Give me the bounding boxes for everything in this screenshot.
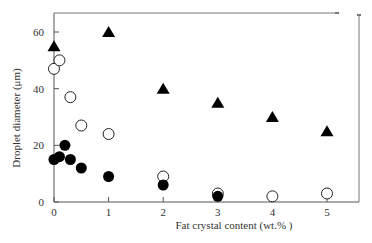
x-tick-label: 3 xyxy=(215,206,221,218)
filled-circle-marker xyxy=(212,191,223,202)
x-tick-label: 0 xyxy=(51,206,57,218)
x-tick-label: 2 xyxy=(160,206,166,218)
triangle-marker xyxy=(48,40,61,51)
y-tick-label: 40 xyxy=(33,83,45,95)
filled-circle-marker xyxy=(54,151,65,162)
open-circle-marker xyxy=(267,191,278,202)
y-tick-label: 0 xyxy=(39,196,45,208)
y-axis-label: Droplet diameter (μm) xyxy=(10,68,23,168)
x-tick-label: 5 xyxy=(324,206,330,218)
y-tick-label: 60 xyxy=(33,26,45,38)
plot-frame xyxy=(54,12,361,202)
filled-circle-marker xyxy=(65,154,76,165)
open-circle-marker xyxy=(65,92,76,103)
x-tick-label: 1 xyxy=(106,206,112,218)
filled-circle-marker xyxy=(158,180,169,191)
x-tick-label: 4 xyxy=(270,206,276,218)
filled-circle-marker xyxy=(76,163,87,174)
open-circle-marker xyxy=(322,188,333,199)
data-points xyxy=(48,26,334,202)
y-tick-label: 20 xyxy=(33,139,45,151)
y-ticks: 0204060 xyxy=(33,26,59,208)
right-border-end xyxy=(357,14,361,16)
x-axis-label: Fat crystal content (wt.% ) xyxy=(176,219,293,232)
triangle-marker xyxy=(157,83,170,94)
open-circle-marker xyxy=(76,120,87,131)
triangle-marker xyxy=(321,125,334,136)
x-ticks: 012345 xyxy=(51,197,330,218)
scatter-chart: 012345 0204060 Fat crystal content (wt.%… xyxy=(0,0,372,243)
open-circle-marker xyxy=(54,55,65,66)
triangle-marker xyxy=(102,26,115,37)
triangle-marker xyxy=(266,111,279,122)
open-circle-marker xyxy=(103,129,114,140)
top-border-end xyxy=(335,12,339,14)
filled-circle-marker xyxy=(103,171,114,182)
triangle-marker xyxy=(211,97,224,108)
filled-circle-marker xyxy=(59,140,70,151)
